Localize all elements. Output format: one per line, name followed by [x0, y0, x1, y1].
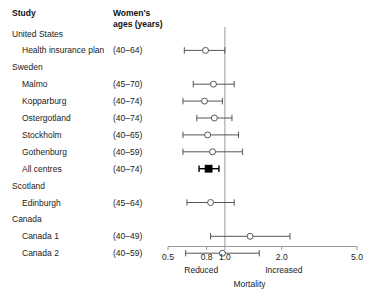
row-study-label: Kopparburg: [22, 96, 66, 106]
axis-direction-label-reduced: Reduced: [184, 265, 218, 275]
column-header-study: Study: [12, 8, 36, 19]
x-axis-tick-label: 1.0: [219, 252, 231, 262]
point-estimate-marker: [210, 81, 216, 87]
row-age-range: (40–64): [113, 45, 142, 55]
point-estimate-marker: [208, 200, 214, 206]
row-age-range: (40–74): [113, 113, 142, 123]
forest-row-7: [183, 132, 239, 138]
forest-plot-figure: Study Women's ages (years) United States…: [0, 0, 365, 308]
point-estimate-marker-summary: [205, 165, 212, 172]
x-axis-tick-label: 0.5: [162, 252, 174, 262]
forest-row-4: [193, 81, 234, 87]
row-study-label: Canada 2: [22, 248, 59, 258]
x-axis-tick-label: 5.0: [351, 252, 363, 262]
x-axis-title: Mortality: [233, 279, 265, 289]
row-age-range: (40–74): [113, 96, 142, 106]
row-study-label: Ostergotland: [22, 113, 71, 123]
point-estimate-marker: [211, 115, 217, 121]
row-age-range: (40–74): [113, 164, 142, 174]
row-study-label: Health insurance plan: [22, 45, 104, 55]
axis-direction-label-increased: Increased: [265, 265, 302, 275]
row-group-label: Sweden: [12, 62, 43, 72]
row-study-label: All centres: [22, 164, 62, 174]
x-axis-tick-label: 2.0: [276, 252, 288, 262]
x-axis-tick-label: 0.8: [201, 252, 213, 262]
row-study-label: Edinburgh: [22, 198, 61, 208]
forest-row-5: [183, 98, 222, 104]
forest-row-11: [187, 199, 234, 205]
forest-row-9: [199, 165, 219, 172]
row-age-range: (40–59): [113, 248, 142, 258]
point-estimate-marker: [205, 132, 211, 138]
row-study-label: Malmo: [22, 79, 48, 89]
column-header-ages: Women's ages (years): [113, 8, 163, 30]
point-estimate-marker: [247, 233, 253, 239]
forest-row-2: [184, 47, 225, 53]
row-group-label: Canada: [12, 214, 42, 224]
row-age-range: (40–49): [113, 231, 142, 241]
row-group-label: Scotland: [12, 181, 45, 191]
row-group-label: United States: [12, 29, 63, 39]
forest-row-8: [183, 149, 243, 155]
row-age-range: (45–70): [113, 79, 142, 89]
row-study-label: Stockholm: [22, 130, 62, 140]
row-study-label: Canada 1: [22, 231, 59, 241]
forest-row-6: [197, 115, 232, 121]
row-study-label: Gothenburg: [22, 147, 67, 157]
row-age-range: (40–59): [113, 147, 142, 157]
point-estimate-marker: [210, 149, 216, 155]
forest-row-13: [211, 233, 290, 239]
point-estimate-marker: [202, 98, 208, 104]
row-age-range: (40–65): [113, 130, 142, 140]
point-estimate-marker: [203, 47, 209, 53]
row-age-range: (45–64): [113, 198, 142, 208]
